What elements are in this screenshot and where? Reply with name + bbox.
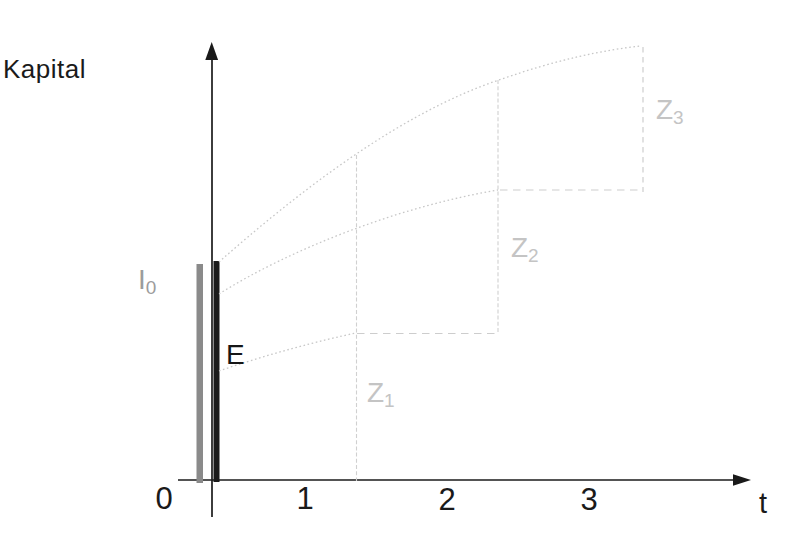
label-i0-main: I	[138, 264, 146, 295]
label-z2-main: Z	[511, 232, 528, 263]
label-z3-main: Z	[656, 94, 673, 125]
growth-curve-period3	[219, 46, 641, 262]
label-z1-subscript: 1	[384, 390, 395, 411]
growth-curve-period2	[219, 190, 498, 294]
x-axis-arrowhead	[733, 474, 751, 486]
y-axis-title: Kapital	[3, 56, 86, 82]
x-tick-label-3: 3	[580, 484, 597, 515]
label-z2-subscript: 2	[528, 245, 539, 266]
compound-interest-capital-diagram: Kapital 0 1 2 3 t E I0 Z1 Z2 Z3	[0, 0, 803, 549]
y-axis-arrowhead	[205, 42, 218, 60]
deposit-bar	[214, 261, 220, 482]
label-interest-z2: Z2	[511, 234, 539, 262]
x-tick-label-2: 2	[438, 484, 455, 515]
label-interest-z1: Z1	[367, 379, 395, 407]
diagram-canvas	[0, 0, 803, 549]
x-axis-title: t	[759, 489, 767, 518]
label-initial-capital-i0: I0	[138, 266, 156, 294]
initial-capital-bar	[197, 264, 204, 483]
label-deposit-e: E	[226, 341, 245, 369]
label-i0-subscript: 0	[146, 277, 157, 298]
x-tick-label-1: 1	[296, 483, 313, 514]
label-z3-subscript: 3	[673, 107, 684, 128]
label-z1-main: Z	[367, 377, 384, 408]
label-interest-z3: Z3	[656, 96, 684, 124]
x-tick-label-0: 0	[155, 483, 172, 514]
